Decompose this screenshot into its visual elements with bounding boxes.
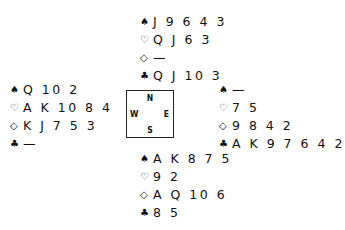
compass-south-label: S [147, 125, 153, 135]
club-icon: ♣ [140, 204, 153, 222]
west-diamonds: ◇K J 7 5 3 [10, 117, 112, 135]
heart-icon: ♡ [140, 31, 153, 49]
south-spades: ♠A K 8 7 5 [140, 150, 232, 168]
east-clubs: ♣A K 9 7 6 4 2 [219, 135, 345, 153]
south-hearts: ♡9 2 [140, 168, 232, 186]
spade-icon: ♠ [140, 13, 153, 31]
south-diamonds: ◇A Q 10 6 [140, 186, 232, 204]
heart-icon: ♡ [10, 99, 23, 117]
east-hearts: ♡7 5 [219, 99, 345, 117]
east-hand: ♠— ♡7 5 ◇9 8 4 2 ♣A K 9 7 6 4 2 [219, 81, 345, 153]
spade-icon: ♠ [10, 81, 23, 99]
diamond-icon: ◇ [10, 117, 23, 135]
north-clubs: ♣Q J 10 3 [140, 67, 227, 85]
west-hand: ♠Q 10 2 ♡A K 10 8 4 ◇K J 7 5 3 ♣— [10, 81, 112, 153]
compass-box: N W E S [126, 90, 174, 138]
diamond-icon: ◇ [219, 117, 232, 135]
heart-icon: ♡ [219, 99, 232, 117]
east-diamonds: ◇9 8 4 2 [219, 117, 345, 135]
diamond-icon: ◇ [140, 186, 153, 204]
diamond-icon: ◇ [140, 49, 153, 67]
north-diamonds: ◇— [140, 49, 227, 67]
north-spades: ♠J 9 6 4 3 [140, 13, 227, 31]
spade-icon: ♠ [219, 81, 232, 99]
north-hand: ♠J 9 6 4 3 ♡Q J 6 3 ◇— ♣Q J 10 3 [140, 13, 227, 85]
club-icon: ♣ [140, 67, 153, 85]
south-hand: ♠A K 8 7 5 ♡9 2 ◇A Q 10 6 ♣8 5 [140, 150, 232, 222]
heart-icon: ♡ [140, 168, 153, 186]
east-spades: ♠— [219, 81, 345, 99]
compass-east-label: E [164, 109, 169, 119]
west-hearts: ♡A K 10 8 4 [10, 99, 112, 117]
west-clubs: ♣— [10, 135, 112, 153]
compass-north-label: N [147, 93, 153, 103]
west-spades: ♠Q 10 2 [10, 81, 112, 99]
compass-west-label: W [130, 109, 138, 119]
south-clubs: ♣8 5 [140, 204, 232, 222]
north-hearts: ♡Q J 6 3 [140, 31, 227, 49]
spade-icon: ♠ [140, 150, 153, 168]
club-icon: ♣ [10, 135, 23, 153]
